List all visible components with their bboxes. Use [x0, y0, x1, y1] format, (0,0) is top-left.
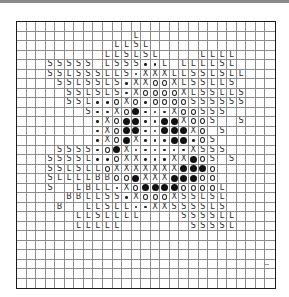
grid-cell: L — [160, 60, 170, 70]
grid-cell — [17, 89, 27, 99]
cell-symbol: S — [124, 51, 129, 59]
grid-cell — [179, 32, 189, 42]
grid-cell — [237, 174, 247, 184]
cell-symbol: X — [181, 155, 186, 163]
grid-cell: S — [199, 98, 209, 108]
grid-cell: S — [65, 155, 75, 165]
grid-cell — [17, 146, 27, 156]
grid-cell: L — [84, 212, 94, 222]
grid-cell: X — [122, 146, 132, 156]
grid-cell — [218, 165, 228, 175]
grid-cell — [160, 117, 170, 127]
grid-cell: L — [237, 70, 247, 80]
small-dot-icon — [163, 149, 166, 152]
grid-cell — [84, 241, 94, 251]
grid-cell — [218, 279, 228, 289]
grid-cell: X — [122, 155, 132, 165]
grid-cell — [151, 98, 161, 108]
grid-cell: L — [227, 70, 237, 80]
open-circle-icon — [181, 185, 186, 191]
grid-cell — [46, 222, 56, 232]
grid-cell — [17, 250, 27, 260]
grid-cell: S — [208, 222, 218, 232]
grid-cell — [17, 41, 27, 51]
cell-symbol: L — [115, 203, 119, 211]
open-circle-icon — [114, 128, 119, 134]
cell-symbol: L — [76, 174, 80, 182]
grid-cell — [237, 22, 247, 32]
cell-symbol: L — [134, 51, 138, 59]
grid-cell: L — [132, 32, 142, 42]
grid-cell — [160, 231, 170, 241]
filled-circle-icon — [132, 175, 139, 182]
grid-cell — [65, 222, 75, 232]
grid-cell — [122, 222, 132, 232]
grid-cell — [113, 127, 123, 137]
grid-cell — [227, 269, 237, 279]
grid-cell — [122, 89, 132, 99]
grid-cell — [113, 250, 123, 260]
grid-cell: L — [208, 70, 218, 80]
grid-cell — [93, 41, 103, 51]
grid-cell — [141, 127, 151, 137]
grid-cell — [151, 222, 161, 232]
grid-cell — [36, 203, 46, 213]
open-circle-icon — [191, 118, 196, 124]
grid-cell — [151, 269, 161, 279]
grid-cell — [265, 269, 275, 279]
cell-symbol: S — [210, 117, 215, 125]
grid-cell: S — [55, 155, 65, 165]
grid-cell — [170, 279, 180, 289]
grid-cell — [246, 155, 256, 165]
cell-symbol: X — [133, 79, 138, 87]
grid-cell — [246, 241, 256, 251]
grid-cell — [189, 241, 199, 251]
grid-cell — [237, 250, 247, 260]
grid-cell — [65, 260, 75, 270]
small-dot-icon — [106, 158, 109, 161]
filled-circle-icon — [190, 175, 197, 182]
grid-cell — [265, 108, 275, 118]
grid-cell — [218, 269, 228, 279]
grid-cell: B — [93, 174, 103, 184]
grid-cell — [122, 117, 132, 127]
grid-cell — [265, 22, 275, 32]
cell-symbol: S — [191, 70, 196, 78]
grid-cell — [160, 98, 170, 108]
grid-cell — [160, 155, 170, 165]
grid-cell: S — [93, 89, 103, 99]
cell-symbol: L — [76, 184, 80, 192]
cell-symbol: S — [210, 98, 215, 106]
grid-cell: X — [170, 193, 180, 203]
grid-cell — [113, 32, 123, 42]
cell-symbol: L — [95, 165, 99, 173]
grid-cell — [27, 117, 37, 127]
cell-symbol: S — [47, 70, 52, 78]
grid-cell — [113, 241, 123, 251]
grid-cell: L — [65, 165, 75, 175]
grid-cell — [170, 241, 180, 251]
grid-cell — [189, 117, 199, 127]
cell-symbol: L — [220, 212, 224, 220]
small-dot-icon — [96, 130, 99, 133]
grid-cell: L — [93, 193, 103, 203]
grid-cell — [208, 41, 218, 51]
grid-cell: L — [189, 89, 199, 99]
grid-cell: L — [84, 165, 94, 175]
grid-cell — [46, 41, 56, 51]
grid-cell — [199, 250, 209, 260]
grid-cell — [65, 117, 75, 127]
cell-symbol: S — [200, 89, 205, 97]
grid-cell: S — [74, 70, 84, 80]
grid-cell — [84, 269, 94, 279]
grid-cell — [27, 174, 37, 184]
grid-cell — [141, 60, 151, 70]
grid-cell — [227, 32, 237, 42]
filled-circle-icon — [132, 108, 139, 115]
cell-symbol: S — [76, 146, 81, 154]
grid-cell: S — [74, 98, 84, 108]
grid-cell — [132, 250, 142, 260]
grid-cell — [265, 250, 275, 260]
grid-cell — [36, 32, 46, 42]
grid-cell: L — [93, 203, 103, 213]
